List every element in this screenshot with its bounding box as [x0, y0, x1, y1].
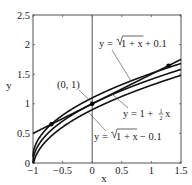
y-tick-label: 2.5	[17, 10, 30, 21]
svg-text:1: 1	[160, 108, 163, 114]
upper-curve-label: y = 1 + x + 0.1	[99, 36, 167, 49]
svg-text:y = 1 +: y = 1 +	[123, 108, 153, 119]
svg-text:y =: y =	[99, 38, 113, 49]
x-tick-label: 1	[149, 165, 154, 176]
y-axis-label: y	[6, 79, 12, 91]
svg-text:2: 2	[160, 115, 163, 121]
y-tick-label: 2	[25, 39, 30, 50]
y-tick-label: 0	[25, 158, 30, 169]
svg-text:+ 0.1: + 0.1	[145, 38, 167, 49]
x-tick-label: 0.5	[115, 165, 128, 176]
x-tick-label: −0.5	[53, 165, 72, 176]
data-point	[166, 63, 170, 67]
svg-text:y =: y =	[94, 131, 108, 142]
data-point	[90, 102, 94, 106]
lower-curve-label: y = 1 + x − 0.1	[94, 129, 162, 142]
y-tick-label: 1	[25, 98, 30, 109]
curve	[33, 59, 181, 133]
svg-text:x: x	[165, 108, 171, 119]
tangent-line-label: y = 1 + 1 2 x	[123, 108, 171, 122]
point-label: (0, 1)	[57, 79, 80, 91]
svg-text:1 + x: 1 + x	[116, 131, 138, 142]
svg-text:− 0.1: − 0.1	[140, 131, 162, 142]
y-tick-label: 0.5	[17, 128, 30, 139]
x-tick-label: 0	[90, 165, 95, 176]
data-point	[49, 122, 53, 126]
y-tick-label: 1.5	[17, 69, 30, 80]
chart: −1−0.500.511.500.511.522.5 x y (0, 1) y …	[0, 0, 192, 185]
x-axis-label: x	[101, 172, 107, 184]
svg-text:1 + x: 1 + x	[121, 38, 143, 49]
x-tick-label: 1.5	[174, 165, 187, 176]
